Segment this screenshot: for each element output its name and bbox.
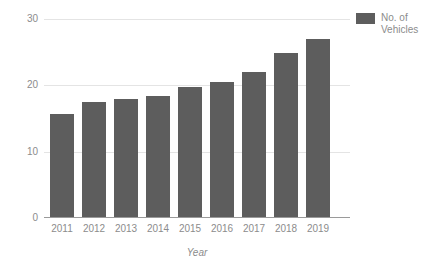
bar-2014[interactable] <box>146 96 170 217</box>
plot-area <box>44 19 350 218</box>
bars-layer <box>44 19 350 218</box>
y-tick-label-20: 20 <box>4 80 38 90</box>
x-axis: 2011 2012 2013 2014 2015 2016 2017 2018 … <box>44 222 350 238</box>
bar-2015[interactable] <box>178 87 202 217</box>
x-tick-label-2015: 2015 <box>174 222 206 236</box>
legend: No. of Vehicles <box>356 12 434 36</box>
x-tick-label-2013: 2013 <box>110 222 142 236</box>
bar-2011[interactable] <box>50 114 74 217</box>
x-tick-label-2011: 2011 <box>46 222 78 236</box>
x-tick-label-2014: 2014 <box>142 222 174 236</box>
bar-2012[interactable] <box>82 102 106 217</box>
x-tick-label-2016: 2016 <box>206 222 238 236</box>
bar-chart: 30 20 10 0 2011 2012 2013 2014 2015 2016… <box>0 0 435 271</box>
bar-2017[interactable] <box>242 72 266 217</box>
y-tick-label-10: 10 <box>4 147 38 157</box>
bar-2018[interactable] <box>274 53 298 218</box>
x-tick-label-2018: 2018 <box>270 222 302 236</box>
x-tick-label-2012: 2012 <box>78 222 110 236</box>
legend-entry-label: No. of Vehicles <box>381 12 429 36</box>
y-axis: 30 20 10 0 <box>0 19 38 218</box>
legend-square-icon <box>356 13 375 24</box>
bar-2016[interactable] <box>210 82 234 217</box>
bar-2019[interactable] <box>306 39 330 217</box>
bar-2013[interactable] <box>114 99 138 217</box>
x-axis-title: Year <box>44 247 350 258</box>
x-tick-label-2019: 2019 <box>302 222 334 236</box>
y-tick-label-30: 30 <box>4 14 38 24</box>
x-tick-label-2017: 2017 <box>238 222 270 236</box>
y-tick-label-0: 0 <box>4 213 38 223</box>
